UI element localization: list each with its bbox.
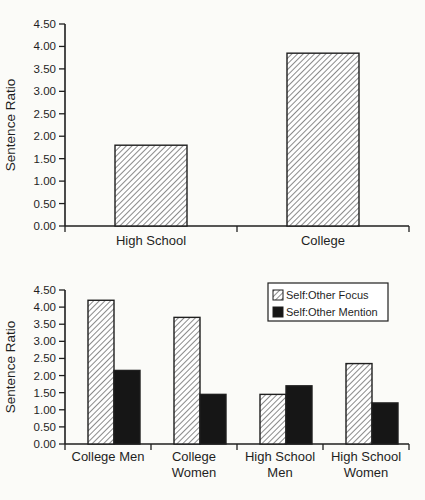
- y-tick-label: 3.50: [34, 318, 56, 330]
- top-chart-figure: 0.000.501.001.502.002.503.003.504.004.50…: [0, 0, 425, 258]
- y-tick-label: 0.00: [34, 220, 56, 232]
- grouped-bar-chart: 0.000.501.001.502.002.503.003.504.004.50…: [0, 258, 425, 500]
- x-category-label: Women: [344, 465, 389, 480]
- y-tick-label: 4.50: [34, 18, 56, 30]
- y-tick-label: 2.00: [34, 130, 56, 142]
- bar-high-school: [115, 145, 187, 226]
- legend-label: Self:Other Mention: [286, 306, 378, 318]
- y-tick-label: 2.50: [34, 352, 56, 364]
- y-tick-label: 3.00: [34, 335, 56, 347]
- y-tick-label: 4.00: [34, 301, 56, 313]
- x-category-label: College Men: [72, 449, 145, 464]
- y-tick-label: 1.00: [34, 175, 56, 187]
- x-category-label: Men: [267, 465, 292, 480]
- y-axis-title: Sentence Ratio: [3, 321, 18, 413]
- y-tick-label: 2.00: [34, 370, 56, 382]
- x-category-label: College: [172, 449, 216, 464]
- bar-high-school-men-self-other-mention: [286, 386, 312, 444]
- y-tick-label: 1.50: [34, 387, 56, 399]
- bar-college-men-self-other-mention: [114, 370, 140, 444]
- y-tick-label: 4.00: [34, 40, 56, 52]
- bar-high-school-men-self-other-focus: [260, 394, 286, 444]
- y-tick-label: 0.50: [34, 198, 56, 210]
- x-category-label: High School: [116, 233, 186, 248]
- figure-page: 0.000.501.001.502.002.503.003.504.004.50…: [0, 0, 425, 500]
- top-bar-chart: 0.000.501.001.502.002.503.003.504.004.50…: [0, 0, 425, 258]
- y-tick-label: 0.00: [34, 438, 56, 450]
- legend-swatch-solid-icon: [273, 307, 283, 317]
- bar-college-women-self-other-focus: [174, 317, 200, 444]
- x-category-label: High School: [245, 449, 315, 464]
- bar-high-school-women-self-other-focus: [346, 364, 372, 444]
- y-tick-label: 3.50: [34, 63, 56, 75]
- x-category-label: High School: [331, 449, 401, 464]
- bar-college-men-self-other-focus: [88, 300, 114, 444]
- x-category-label: College: [301, 233, 345, 248]
- y-tick-label: 0.50: [34, 421, 56, 433]
- y-tick-label: 1.00: [34, 404, 56, 416]
- bar-college-women-self-other-mention: [200, 394, 226, 444]
- y-tick-label: 1.50: [34, 153, 56, 165]
- bottom-chart-figure: 0.000.501.001.502.002.503.003.504.004.50…: [0, 258, 425, 500]
- y-tick-label: 2.50: [34, 108, 56, 120]
- y-tick-label: 3.00: [34, 85, 56, 97]
- bar-college: [287, 53, 359, 226]
- x-category-label: Women: [172, 465, 217, 480]
- bar-high-school-women-self-other-mention: [372, 403, 398, 444]
- legend-swatch-hatched-icon: [273, 290, 283, 300]
- y-tick-label: 4.50: [34, 284, 56, 296]
- legend-label: Self:Other Focus: [286, 289, 369, 301]
- y-axis-title: Sentence Ratio: [3, 79, 18, 171]
